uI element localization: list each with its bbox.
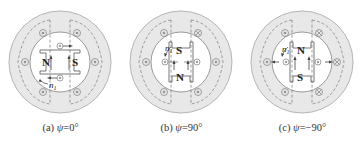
pole-label-top: S xyxy=(176,44,182,56)
speed-subscript: 1 xyxy=(170,48,173,54)
speed-subscript: 1 xyxy=(54,85,57,91)
panel-a: N S n1 (a) ψ=0° xyxy=(0,0,121,148)
pole-label-bottom: S xyxy=(297,71,303,83)
panel-b: S N n1 (b) ψ=90° xyxy=(121,0,242,148)
motor-diagram-a: N S n1 xyxy=(0,0,121,118)
caption-prefix: (a) xyxy=(42,122,56,133)
caption-value: =−90° xyxy=(300,122,327,133)
caption-prefix: (b) xyxy=(160,122,175,133)
speed-subscript: 1 xyxy=(287,49,290,55)
caption-value: =0° xyxy=(63,122,78,133)
caption-value: =90° xyxy=(182,122,203,133)
pole-label-right: S xyxy=(72,56,78,68)
motor-diagram-c: N S n1 xyxy=(242,0,363,118)
caption-prefix: (c) xyxy=(279,122,293,133)
panel-c: N S n1 (c) ψ=−90° xyxy=(242,0,363,148)
pole-label-top: N xyxy=(297,44,305,56)
pole-label-left: N xyxy=(42,56,50,68)
caption-a: (a) ψ=0° xyxy=(0,122,121,133)
motor-diagram-b: S N n1 xyxy=(121,0,242,118)
caption-b: (b) ψ=90° xyxy=(121,122,242,133)
caption-c: (c) ψ=−90° xyxy=(242,122,363,133)
pole-label-bottom: N xyxy=(176,71,184,83)
